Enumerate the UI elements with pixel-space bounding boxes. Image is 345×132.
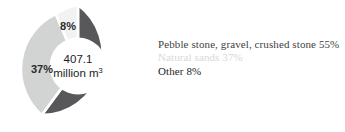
center-unit-text: million m — [53, 67, 98, 79]
slice-value-label-other: 8% — [60, 20, 76, 32]
donut-chart-figure: 55% 37% 8% 407.1 million m3 Pebble stone… — [0, 0, 345, 132]
donut-chart-svg: 55% 37% 8% 407.1 million m3 — [15, 3, 141, 129]
legend-item-pebble-stone[interactable]: Pebble stone, gravel, crushed stone 55% — [158, 38, 338, 51]
center-total-value: 407.1 — [64, 53, 93, 65]
legend-item-other[interactable]: Other 8% — [158, 65, 338, 78]
center-total-unit: million m3 — [53, 66, 103, 80]
chart-legend: Pebble stone, gravel, crushed stone 55% … — [158, 38, 338, 78]
donut-chart: 55% 37% 8% 407.1 million m3 — [15, 3, 141, 129]
slice-value-label-natural-sands: 37% — [31, 63, 53, 75]
center-unit-superscript: 3 — [99, 66, 103, 75]
slice-value-label-pebble-stone: 55% — [105, 63, 127, 75]
legend-item-natural-sands[interactable]: Natural sands 37% — [158, 51, 338, 64]
